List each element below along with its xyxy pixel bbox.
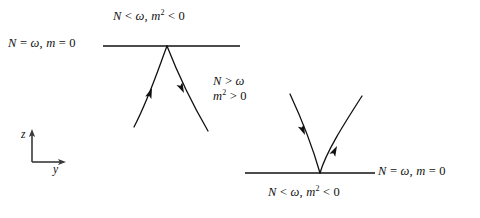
label-right-boundary-eq2: = bbox=[429, 164, 436, 178]
label-right-boundary: N = ω, m = 0 bbox=[378, 164, 446, 179]
label-middle-region-line1: N > ω bbox=[213, 74, 247, 89]
label-right-boundary-m: m bbox=[416, 164, 425, 178]
label-right-boundary-zero: 0 bbox=[439, 164, 445, 178]
label-left-boundary-N: N bbox=[8, 36, 17, 50]
label-lower-region-N: N bbox=[268, 185, 277, 199]
label-left-boundary-eq2: = bbox=[59, 36, 66, 50]
lower-cone-left-branch bbox=[290, 94, 320, 173]
upper-cone-right-branch bbox=[167, 46, 208, 131]
diagram-svg bbox=[0, 0, 480, 218]
upper-cone-left-branch bbox=[134, 46, 167, 127]
label-left-boundary-m: m bbox=[46, 36, 55, 50]
label-lower-region-exponent: 2 bbox=[315, 184, 319, 193]
label-upper-region-comma: , bbox=[144, 9, 147, 23]
label-lower-region-comma: , bbox=[299, 185, 302, 199]
axis-label-y: y bbox=[53, 163, 58, 177]
label-middle-region-op2: > bbox=[230, 89, 237, 103]
upper-cone-left-arrowhead bbox=[145, 87, 155, 99]
label-left-boundary-comma: , bbox=[39, 36, 42, 50]
label-upper-region-N: N bbox=[113, 9, 122, 23]
label-middle-region-zero: 0 bbox=[240, 89, 246, 103]
label-upper-region-m: m bbox=[151, 9, 160, 23]
label-middle-region-exponent: 2 bbox=[222, 88, 226, 97]
label-middle-region-line2: m2 > 0 bbox=[213, 89, 247, 104]
label-left-boundary-eq1: = bbox=[20, 36, 27, 50]
lower-cone-right-branch bbox=[320, 96, 362, 173]
label-upper-region: N < ω, m2 < 0 bbox=[113, 9, 185, 24]
label-lower-region-op2: < bbox=[323, 185, 330, 199]
label-right-boundary-comma: , bbox=[409, 164, 412, 178]
label-upper-region-op2: < bbox=[168, 9, 175, 23]
diagram-canvas: N < ω, m2 < 0 N = ω, m = 0 N > ω m2 > 0 … bbox=[0, 0, 480, 218]
label-upper-region-exponent: 2 bbox=[160, 8, 164, 17]
label-left-boundary: N = ω, m = 0 bbox=[8, 36, 76, 51]
label-right-boundary-eq1: = bbox=[390, 164, 397, 178]
label-middle-region: N > ω m2 > 0 bbox=[213, 74, 247, 104]
label-upper-region-zero: 0 bbox=[178, 9, 184, 23]
label-middle-region-op1: > bbox=[225, 74, 232, 88]
label-left-boundary-zero: 0 bbox=[69, 36, 75, 50]
label-middle-region-omega: ω bbox=[235, 74, 244, 88]
label-middle-region-m: m bbox=[213, 89, 222, 103]
label-lower-region: N < ω, m2 < 0 bbox=[268, 185, 340, 200]
label-lower-region-op1: < bbox=[280, 185, 287, 199]
label-lower-region-zero: 0 bbox=[333, 185, 339, 199]
label-middle-region-N: N bbox=[213, 74, 222, 88]
label-upper-region-op1: < bbox=[125, 9, 132, 23]
label-lower-region-m: m bbox=[306, 185, 315, 199]
label-right-boundary-N: N bbox=[378, 164, 387, 178]
axis-label-z: z bbox=[21, 128, 26, 142]
